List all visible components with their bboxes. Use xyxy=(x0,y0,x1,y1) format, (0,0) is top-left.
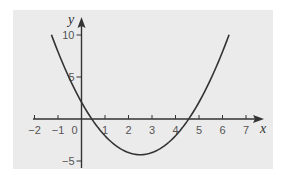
y-tick-label: 10 xyxy=(62,29,74,41)
plot-panel xyxy=(13,10,273,169)
x-tick-label: 2 xyxy=(125,124,131,136)
x-tick-label: 5 xyxy=(196,124,202,136)
x-tick-label: 0 xyxy=(71,124,77,136)
parabola-chart: −2−101234567−5510 x y xyxy=(0,0,284,175)
x-tick-label: −2 xyxy=(28,124,41,136)
x-axis-label: x xyxy=(259,121,267,136)
y-tick-label: −5 xyxy=(62,155,75,167)
x-tick-label: 7 xyxy=(243,124,249,136)
x-tick-label: 3 xyxy=(149,124,155,136)
x-tick-label: 6 xyxy=(219,124,225,136)
y-axis-label: y xyxy=(66,12,75,27)
x-tick-label: −1 xyxy=(52,124,65,136)
